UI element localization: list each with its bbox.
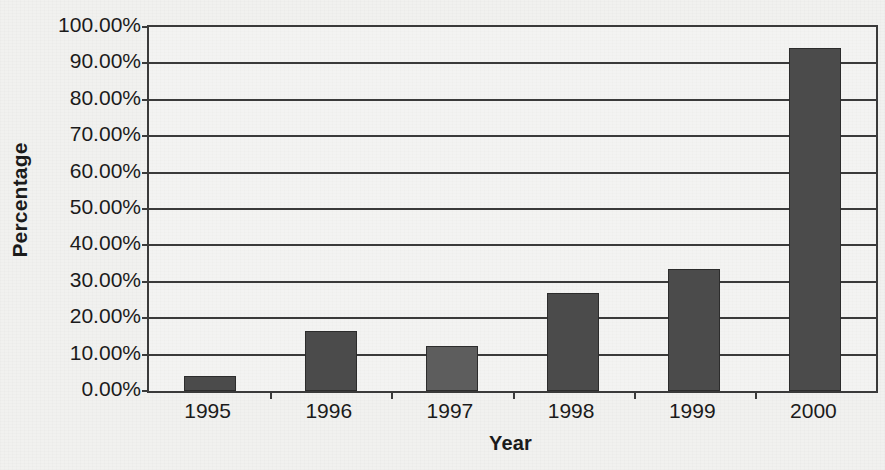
bar-chart: Percentage 0.00%10.00%20.00%30.00%40.00%…	[0, 0, 885, 470]
x-axis-tick	[391, 391, 393, 399]
y-axis-tick-label: 90.00%	[9, 49, 147, 73]
gridline	[149, 99, 876, 101]
x-axis-tick-labels: 199519961997199819992000	[147, 399, 874, 429]
y-axis-tick-labels: 0.00%10.00%20.00%30.00%40.00%50.00%60.00…	[0, 0, 147, 470]
y-axis-tick-label: 100.00%	[9, 13, 147, 37]
y-axis-tick-label: 10.00%	[9, 341, 147, 365]
y-axis-tick-label: 30.00%	[9, 268, 147, 292]
x-axis-tick	[513, 391, 515, 399]
gridline	[149, 62, 876, 64]
y-axis-tick-label: 40.00%	[9, 231, 147, 255]
x-axis-tick-label: 2000	[790, 399, 837, 423]
y-axis-tick	[142, 281, 149, 283]
bar-1998	[547, 293, 599, 391]
x-axis-tick-label: 1996	[305, 399, 352, 423]
bar-1995	[184, 376, 236, 391]
x-axis-tick	[755, 391, 757, 399]
y-axis-tick	[142, 62, 149, 64]
gridline	[149, 172, 876, 174]
y-axis-tick-label: 60.00%	[9, 159, 147, 183]
gridline	[149, 244, 876, 246]
y-axis-tick	[142, 99, 149, 101]
gridline	[149, 281, 876, 283]
y-axis-tick	[142, 26, 149, 28]
y-axis-tick	[142, 208, 149, 210]
y-axis-tick-label: 70.00%	[9, 122, 147, 146]
y-axis-tick-label: 20.00%	[9, 304, 147, 328]
y-axis-tick	[142, 172, 149, 174]
x-axis-tick-label: 1999	[669, 399, 716, 423]
y-axis-tick	[142, 317, 149, 319]
x-axis-tick-label: 1997	[427, 399, 474, 423]
y-axis-tick-label: 50.00%	[9, 195, 147, 219]
x-axis-tick-label: 1998	[548, 399, 595, 423]
y-axis-tick	[142, 135, 149, 137]
y-axis-tick	[142, 354, 149, 356]
x-axis-tick	[634, 391, 636, 399]
bar-1997	[426, 346, 478, 392]
x-axis-tick	[270, 391, 272, 399]
y-axis-tick	[142, 244, 149, 246]
bar-1996	[305, 331, 357, 391]
gridline	[149, 208, 876, 210]
y-axis-tick-label: 80.00%	[9, 86, 147, 110]
plot-area	[147, 25, 878, 393]
bar-2000	[789, 48, 841, 391]
x-axis-title: Year	[147, 432, 874, 455]
x-axis-tick-label: 1995	[184, 399, 231, 423]
y-axis-tick-label: 0.00%	[9, 377, 147, 401]
y-axis-tick	[142, 390, 149, 392]
gridline	[149, 317, 876, 319]
bar-1999	[668, 269, 720, 391]
gridline	[149, 354, 876, 356]
gridline	[149, 135, 876, 137]
